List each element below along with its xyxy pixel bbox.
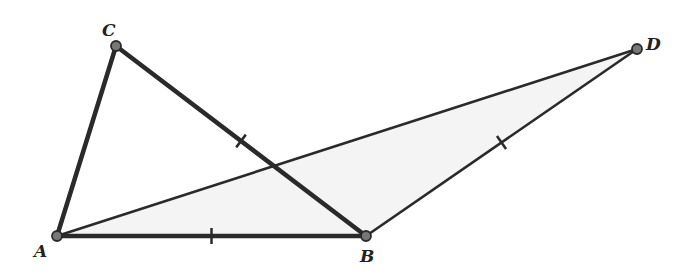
point-c xyxy=(111,41,121,51)
label-d: D xyxy=(645,34,661,54)
label-a: A xyxy=(32,241,47,261)
point-d xyxy=(632,44,642,54)
label-c: C xyxy=(102,20,116,40)
segment-ac xyxy=(57,46,116,236)
geometry-diagram: A B C D xyxy=(0,0,692,280)
label-b: B xyxy=(359,246,374,266)
point-a xyxy=(52,231,62,241)
point-b xyxy=(361,231,371,241)
